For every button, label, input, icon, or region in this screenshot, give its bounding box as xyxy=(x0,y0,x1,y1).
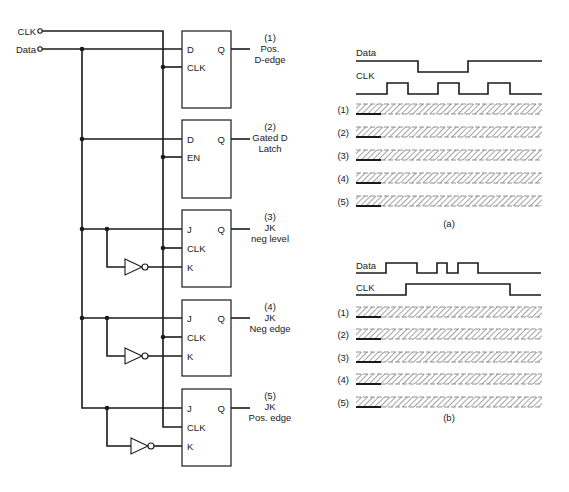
output-strip: (1) xyxy=(337,104,542,115)
waveform-trace xyxy=(356,263,541,273)
input-clk: CLK xyxy=(18,26,43,37)
flipflop-caption-line: neg level xyxy=(251,233,289,244)
output-strip-label: (3) xyxy=(337,352,349,363)
inverter-triangle xyxy=(125,259,142,275)
flipflop-caption-line: (2) xyxy=(264,121,276,132)
waveform-clk: CLK xyxy=(356,70,542,94)
flipflop-caption-line: D-edge xyxy=(254,54,285,65)
junction-dot xyxy=(80,47,85,52)
undetermined-hatch xyxy=(356,173,542,183)
inverter-bubble xyxy=(142,264,148,270)
pin-k-label: K xyxy=(187,351,194,362)
output-strip-label: (4) xyxy=(337,374,349,385)
junction-dot xyxy=(161,246,166,251)
input-clk-label: CLK xyxy=(18,26,37,37)
waveform-data: Data xyxy=(356,260,541,273)
flipflop-caption-line: JK xyxy=(264,222,276,233)
flipflop-caption-line: Pos. edge xyxy=(249,412,292,423)
output-strip-label: (4) xyxy=(337,173,349,184)
junction-dot xyxy=(80,316,85,321)
pin-q-label: Q xyxy=(218,44,225,55)
output-strip: (3) xyxy=(337,150,542,161)
output-strip: (5) xyxy=(337,397,542,408)
inverter-bubble xyxy=(148,443,154,449)
undetermined-hatch xyxy=(356,150,542,160)
flipflop-5: JCLKKQ(5)JKPos. edge xyxy=(105,389,292,466)
waveform-label: CLK xyxy=(356,282,375,293)
junction-dot xyxy=(161,65,166,70)
pin-clk-label: CLK xyxy=(187,332,206,343)
input-clk-terminal xyxy=(38,29,42,33)
flipflop-4: JCLKKQ(4)JKNeg edge xyxy=(80,300,291,376)
input-data-terminal xyxy=(38,47,42,51)
output-strip: (4) xyxy=(337,374,542,385)
pin-k-label: K xyxy=(187,262,194,273)
output-strip-label: (1) xyxy=(337,307,349,318)
junction-dot xyxy=(161,335,166,340)
flipflop-3: JCLKKQ(3)JKneg level xyxy=(80,210,289,287)
output-strip: (4) xyxy=(337,173,542,184)
output-strip-label: (2) xyxy=(337,329,349,340)
pin-k-label: K xyxy=(187,441,194,452)
inverter-gate xyxy=(131,438,154,454)
flipflop-caption-line: JK xyxy=(264,401,276,412)
undetermined-hatch xyxy=(356,127,542,137)
pin-j-label: J xyxy=(187,224,192,235)
output-strip: (2) xyxy=(337,329,542,340)
waveform-trace xyxy=(356,61,542,72)
timing-diagram-a: DataCLK(1)(2)(3)(4)(5)(a) xyxy=(337,47,542,229)
flipflop-comparison-diagram: CLK Data DCLKQ(1)Pos.D-edgeDENQ(2)Gated … xyxy=(0,0,569,492)
junction-dot xyxy=(161,155,166,160)
flipflop-2: DENQ(2)Gated DLatch xyxy=(80,120,288,198)
timing-diagram-b: DataCLK(1)(2)(3)(4)(5)(b) xyxy=(337,260,542,423)
pin-q-label: Q xyxy=(218,224,225,235)
pin-j-label: J xyxy=(187,403,192,414)
timing-caption: (a) xyxy=(443,218,455,229)
flipflop-caption-line: Neg edge xyxy=(249,323,290,334)
undetermined-hatch xyxy=(356,329,542,339)
waveform-trace xyxy=(356,284,541,295)
undetermined-hatch xyxy=(356,307,542,317)
pin-q-label: Q xyxy=(218,313,225,324)
pin-j-label: J xyxy=(187,313,192,324)
flipflop-caption-line: (3) xyxy=(264,211,276,222)
waveform-trace xyxy=(356,83,542,94)
waveform-clk: CLK xyxy=(356,282,541,295)
flipflop-caption-line: (1) xyxy=(264,32,276,43)
waveform-label: Data xyxy=(356,47,377,58)
pin-d-label: D xyxy=(187,44,194,55)
inverter-triangle xyxy=(131,438,148,454)
undetermined-hatch xyxy=(356,104,542,114)
output-strip: (3) xyxy=(337,352,542,363)
output-strip: (1) xyxy=(337,307,542,318)
input-data-label: Data xyxy=(16,44,37,55)
waveform-label: CLK xyxy=(356,70,375,81)
pin-clk-label: CLK xyxy=(187,243,206,254)
undetermined-hatch xyxy=(356,352,542,362)
inverter-bubble xyxy=(142,353,148,359)
output-strip-label: (1) xyxy=(337,104,349,115)
flipflop-1: DCLKQ(1)Pos.D-edge xyxy=(80,31,286,108)
output-strip-label: (2) xyxy=(337,127,349,138)
flipflop-caption-line: Latch xyxy=(258,143,281,154)
waveform-data: Data xyxy=(356,47,542,72)
flipflop-caption-line: Gated D xyxy=(252,132,288,143)
pin-q-label: Q xyxy=(218,134,225,145)
output-strip-label: (3) xyxy=(337,150,349,161)
flipflop-circuits: DCLKQ(1)Pos.D-edgeDENQ(2)Gated DLatchJCL… xyxy=(80,31,292,466)
undetermined-hatch xyxy=(356,397,542,407)
output-strip-label: (5) xyxy=(337,196,349,207)
flipflop-caption-line: Pos. xyxy=(260,43,279,54)
pin-clk-label: CLK xyxy=(187,422,206,433)
flipflop-caption-line: (5) xyxy=(264,390,276,401)
timing-diagrams: DataCLK(1)(2)(3)(4)(5)(a)DataCLK(1)(2)(3… xyxy=(337,47,542,423)
junction-dot xyxy=(80,227,85,232)
undetermined-hatch xyxy=(356,196,542,206)
timing-caption: (b) xyxy=(443,412,455,423)
undetermined-hatch xyxy=(356,374,542,384)
output-strip: (2) xyxy=(337,127,542,138)
waveform-label: Data xyxy=(356,260,377,271)
inverter-gate xyxy=(125,348,148,364)
pin-q-label: Q xyxy=(218,403,225,414)
pin-d-label: D xyxy=(187,134,194,145)
